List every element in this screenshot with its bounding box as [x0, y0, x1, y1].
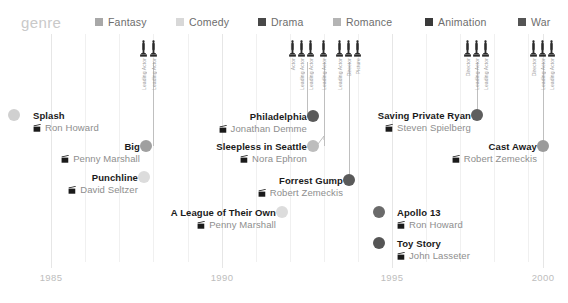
award-label: Leading Actor [549, 58, 555, 90]
award-marker[interactable]: Picture [353, 40, 362, 74]
film-title: Splash [33, 110, 99, 122]
film-entry[interactable]: Apollo 13Ron Howard [397, 207, 463, 231]
oscar-statuette-icon [529, 40, 538, 57]
film-director: Nora Ephron [252, 153, 307, 165]
oscar-statuette-icon [288, 40, 297, 57]
award-label: Director [531, 58, 537, 76]
film-marker[interactable] [471, 109, 483, 121]
clapperboard-icon [397, 252, 406, 260]
film-entry[interactable]: PhiladelphiaJonathan Demme [219, 111, 307, 135]
award-label: Leading Actor [337, 58, 343, 90]
film-director-line: Robert Zemeckis [452, 153, 537, 165]
film-title: Forrest Gump [258, 175, 343, 187]
award-label: Leading Actor [299, 58, 305, 90]
film-director: Robert Zemeckis [464, 153, 537, 165]
clapperboard-icon [452, 155, 461, 163]
film-director-line: Penny Marshall [171, 219, 276, 231]
film-marker[interactable] [307, 140, 319, 152]
award-label: Picture [355, 58, 361, 74]
award-label: Leading Actor [540, 58, 546, 90]
axis-tick-label: 1995 [381, 272, 404, 283]
film-entry[interactable]: PunchlineDavid Seltzer [68, 172, 138, 196]
award-marker[interactable]: Director [463, 40, 472, 76]
film-director: Ron Howard [409, 219, 463, 231]
film-director: Penny Marshall [209, 219, 276, 231]
award-marker[interactable]: Director [529, 40, 538, 76]
film-entry[interactable]: Forrest GumpRobert Zemeckis [258, 175, 343, 199]
film-marker[interactable] [8, 109, 20, 121]
gridline [392, 34, 393, 268]
axis-tick-label: 1990 [211, 272, 234, 283]
film-director: David Seltzer [80, 184, 138, 196]
award-marker[interactable]: Leading Actor [538, 40, 547, 90]
oscar-statuette-icon [353, 40, 362, 57]
award-marker[interactable]: Leading Actor [139, 40, 148, 90]
film-director-line: Jonathan Demme [219, 123, 307, 135]
film-entry[interactable]: A League of Their OwnPenny Marshall [171, 207, 276, 231]
oscar-statuette-icon [547, 40, 556, 57]
film-director-line: David Seltzer [68, 184, 138, 196]
award-marker[interactable]: Leading Actor [306, 40, 315, 90]
oscar-statuette-icon [481, 40, 490, 57]
clapperboard-icon [258, 189, 267, 197]
film-director-line: Ron Howard [33, 122, 99, 134]
film-marker[interactable] [343, 174, 355, 186]
plot-area: Leading ActorLeading ActorActorLeading A… [0, 0, 568, 303]
film-director-line: John Lasseter [397, 250, 470, 262]
film-marker[interactable] [537, 140, 549, 152]
film-entry[interactable]: Cast AwayRobert Zemeckis [452, 141, 537, 165]
oscar-statuette-icon [538, 40, 547, 57]
film-marker[interactable] [140, 140, 152, 152]
award-marker[interactable]: Leading Actor [297, 40, 306, 90]
film-director-line: Nora Ephron [216, 153, 307, 165]
axis-tick-label: 1985 [40, 272, 63, 283]
film-title: Sleepless in Seattle [216, 141, 307, 153]
oscar-statuette-icon [319, 40, 328, 57]
award-label: Leading Actor [474, 58, 480, 90]
award-marker[interactable]: Leading Actor [472, 40, 481, 90]
film-director-line: Penny Marshall [61, 153, 140, 165]
film-marker[interactable] [307, 110, 319, 122]
film-marker[interactable] [276, 206, 288, 218]
oscar-statuette-icon [344, 40, 353, 57]
award-label: Leading Actor [141, 58, 147, 90]
film-title: Toy Story [397, 238, 470, 250]
gridline [51, 34, 52, 268]
award-marker[interactable]: Actor [288, 40, 297, 70]
oscar-statuette-icon [306, 40, 315, 57]
oscar-statuette-icon [335, 40, 344, 57]
award-marker[interactable]: Leading Actor [319, 40, 328, 90]
film-marker[interactable] [373, 206, 385, 218]
film-title: Big [61, 141, 140, 153]
clapperboard-icon [197, 221, 206, 229]
film-title: Punchline [68, 172, 138, 184]
award-label: Director [465, 58, 471, 76]
film-entry[interactable]: Sleepless in SeattleNora Ephron [216, 141, 307, 165]
film-title: Apollo 13 [397, 207, 463, 219]
clapperboard-icon [397, 221, 406, 229]
clapperboard-icon [68, 186, 77, 194]
award-marker[interactable]: Leading Actor [149, 40, 158, 90]
award-marker[interactable]: Director [344, 40, 353, 76]
film-entry[interactable]: Toy StoryJohn Lasseter [397, 238, 470, 262]
film-entry[interactable]: SplashRon Howard [33, 110, 99, 134]
film-director-line: Ron Howard [397, 219, 463, 231]
film-director: Ron Howard [45, 122, 99, 134]
film-title: Philadelphia [219, 111, 307, 123]
film-director: Penny Marshall [73, 153, 140, 165]
award-marker[interactable]: Leading Actor [547, 40, 556, 90]
film-title: Saving Private Ryan [378, 110, 471, 122]
film-director-line: Steven Spielberg [378, 122, 471, 134]
film-marker[interactable] [373, 237, 385, 249]
chart-canvas: genre FantasyComedyDramaRomanceAnimation… [0, 0, 568, 303]
clapperboard-icon [385, 124, 394, 132]
film-entry[interactable]: Saving Private RyanSteven Spielberg [378, 110, 471, 134]
axis-tick-label: 2000 [532, 272, 555, 283]
film-marker[interactable] [138, 171, 150, 183]
film-entry[interactable]: BigPenny Marshall [61, 141, 140, 165]
award-stem [349, 62, 350, 180]
award-label: Leading Actor [151, 58, 157, 90]
award-marker[interactable]: Leading Actor [481, 40, 490, 90]
award-marker[interactable]: Leading Actor [335, 40, 344, 90]
clapperboard-icon [33, 124, 42, 132]
